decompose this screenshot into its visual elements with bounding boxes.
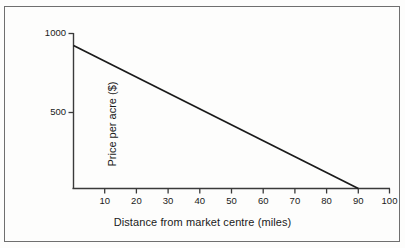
x-tick-label-40: 40 xyxy=(185,195,215,206)
y-tick-label-500: 500 xyxy=(26,106,66,117)
x-tick-label-80: 80 xyxy=(312,195,342,206)
chart-page: 1000 500 10 20 30 40 50 60 70 80 90 100 … xyxy=(0,0,405,248)
bid-rent-line xyxy=(74,46,359,189)
x-tick-label-30: 30 xyxy=(153,195,183,206)
x-tick-label-60: 60 xyxy=(248,195,278,206)
x-tick-label-20: 20 xyxy=(121,195,151,206)
x-tick-label-70: 70 xyxy=(280,195,310,206)
x-tick-label-100: 100 xyxy=(375,195,405,206)
x-axis-title: Distance from market centre (miles) xyxy=(0,216,405,228)
x-tick-label-50: 50 xyxy=(217,195,247,206)
series-bid-rent xyxy=(74,46,359,189)
x-tick-label-10: 10 xyxy=(90,195,120,206)
y-axis xyxy=(69,33,74,189)
x-axis xyxy=(73,189,391,194)
x-tick-label-90: 90 xyxy=(343,195,373,206)
y-tick-label-1000: 1000 xyxy=(26,27,66,38)
